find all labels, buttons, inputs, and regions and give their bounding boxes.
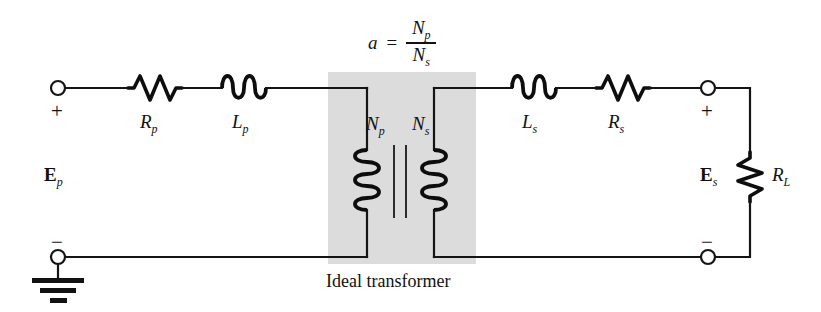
resistor-rs: [596, 76, 650, 100]
inductor-ls: [512, 76, 556, 98]
circuit-diagram: a = Np Ns Rp Lp Np Ns Ls Rs RL Ep Es + −…: [0, 0, 821, 312]
secondary-terminal-positive[interactable]: [701, 81, 715, 95]
label-inductor-ls: Ls: [522, 112, 537, 135]
turns-ratio-fraction: Np Ns: [406, 18, 436, 68]
polarity-secondary-minus: −: [701, 232, 713, 253]
label-primary-turns-np: Np: [366, 114, 385, 137]
wire-terminal-to-load: [717, 88, 750, 152]
turns-ratio-denominator: Ns: [410, 45, 433, 68]
load-resistor-rl: [738, 152, 762, 202]
ground-symbol: [32, 264, 84, 303]
label-resistor-rp: Rp: [140, 112, 158, 135]
label-source-ep: Ep: [44, 165, 63, 188]
label-resistor-rs: Rs: [608, 112, 624, 135]
wire-load-to-bottom-rail: [717, 202, 750, 257]
polarity-primary-minus: −: [51, 232, 63, 253]
turns-ratio-equation: a = Np Ns: [368, 18, 436, 68]
turns-ratio-equals: =: [387, 32, 398, 54]
ideal-transformer-caption: Ideal transformer: [326, 272, 450, 290]
polarity-secondary-plus: +: [701, 101, 713, 122]
label-load-resistor-rl: RL: [772, 165, 790, 188]
inductor-lp: [222, 76, 266, 98]
turns-ratio-numerator: Np: [409, 18, 434, 41]
ideal-transformer-shade-region: [328, 72, 476, 264]
label-source-es: Es: [700, 165, 717, 188]
label-inductor-lp: Lp: [232, 112, 249, 135]
resistor-rp: [128, 76, 182, 100]
primary-terminal-positive[interactable]: [51, 81, 65, 95]
label-secondary-turns-ns: Ns: [412, 114, 429, 137]
turns-ratio-variable: a: [368, 32, 378, 54]
polarity-primary-plus: +: [51, 101, 63, 122]
